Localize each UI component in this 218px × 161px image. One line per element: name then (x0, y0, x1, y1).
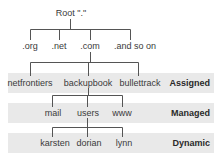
managed-node-mail: mail (45, 108, 62, 118)
dynamic-node-karsten: karsten (40, 138, 70, 148)
managed-node-users: users (77, 108, 99, 118)
assigned-node-backupbook: backupbook (64, 78, 113, 88)
tld-node-com: .com (80, 41, 100, 51)
tld-node-org: .org (22, 41, 38, 51)
tld-node-net: .net (51, 41, 66, 51)
tier-label-dynamic: Dynamic (172, 138, 210, 148)
dynamic-node-dorian: dorian (76, 138, 101, 148)
assigned-node-bullettrack: bullettrack (119, 78, 160, 88)
tld-node-and-so-on: .and so on (114, 41, 156, 51)
root-node: Root "." (56, 8, 86, 18)
dynamic-node-lynn: lynn (116, 138, 133, 148)
tier-label-managed: Managed (171, 108, 210, 118)
assigned-node-netfrontiers: netfrontiers (7, 78, 52, 88)
tier-label-assigned: Assigned (169, 78, 210, 88)
managed-node-www: www (112, 108, 132, 118)
